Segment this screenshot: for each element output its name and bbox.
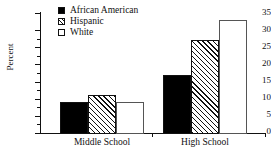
y-tick-25 [35,47,40,48]
x-axis-label-middle-school: Middle School [42,137,162,147]
legend-label-african-american: African American [70,6,138,16]
y-tick-15 [35,82,40,83]
legend-swatch-hispanic-icon [58,18,65,25]
y-tick-minor-22-5 [37,56,40,57]
y-tick-35 [35,13,40,14]
bar-middle-school-white [116,102,144,134]
bar-high-school-white [219,20,247,134]
bar-middle-school-hispanic [88,95,116,133]
y-tick-minor-2-5 [37,124,40,125]
legend-label-hispanic: Hispanic [70,17,104,27]
legend-item-hispanic: Hispanic [58,16,138,27]
y-axis-label: Percent [5,27,15,87]
bar-chart: Percent 35 30 25 20 15 10 5 0 Middle Sch… [0,0,271,152]
y-tick-minor-27-5 [37,39,40,40]
legend-label-white: White [70,28,93,38]
y-tick-30 [35,30,40,31]
legend-swatch-white-icon [58,29,65,36]
y-tick-minor-12-5 [37,90,40,91]
legend-item-white: White [58,27,138,38]
y-tick-label-35: 35 [237,8,271,17]
y-tick-10 [35,99,40,100]
x-axis-label-high-school: High School [145,137,265,147]
y-tick-minor-17-5 [37,73,40,74]
axis-end-tick [265,133,266,137]
y-tick-minor-7-5 [37,107,40,108]
legend: African American Hispanic White [58,5,138,38]
y-axis-line [40,12,41,134]
legend-swatch-african-american-icon [58,7,65,14]
bar-high-school-hispanic [191,40,219,133]
y-tick-0 [35,133,40,134]
y-tick-5 [35,116,40,117]
y-tick-20 [35,64,40,65]
legend-item-african-american: African American [58,5,138,16]
bar-middle-school-african-american [60,102,88,134]
bar-high-school-african-american [163,75,191,134]
